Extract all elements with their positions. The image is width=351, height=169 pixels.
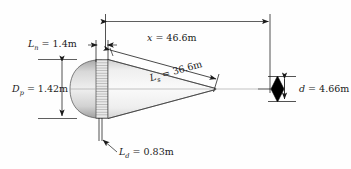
dimension-value-x: = 46.6m: [152, 32, 196, 43]
dimension-value-Ld: = 0.83m: [130, 146, 174, 157]
dimension-label-d: d = 4.66m: [299, 84, 349, 94]
dimension-symbol-Dp: D: [12, 83, 20, 94]
dimension-Ld: [99, 118, 117, 152]
dimension-value-d: = 4.66m: [305, 83, 349, 94]
dimension-value-Dp: = 1.42m: [24, 83, 68, 94]
dimension-label-Ld: Ld = 0.83m: [119, 147, 174, 159]
dimension-label-x: x = 46.6m: [147, 33, 197, 43]
dimension-value-Ln: = 1.4m: [39, 38, 77, 49]
dimension-label-Ln: Ln = 1.4m: [28, 39, 77, 51]
dimension-label-Dp: Dp = 1.42m: [12, 84, 68, 96]
figure-canvas: x = 46.6m Ln = 1.4m Ls = 36.6m Dp = 1.42…: [0, 0, 351, 169]
impact-diamond-marker: [271, 76, 284, 102]
